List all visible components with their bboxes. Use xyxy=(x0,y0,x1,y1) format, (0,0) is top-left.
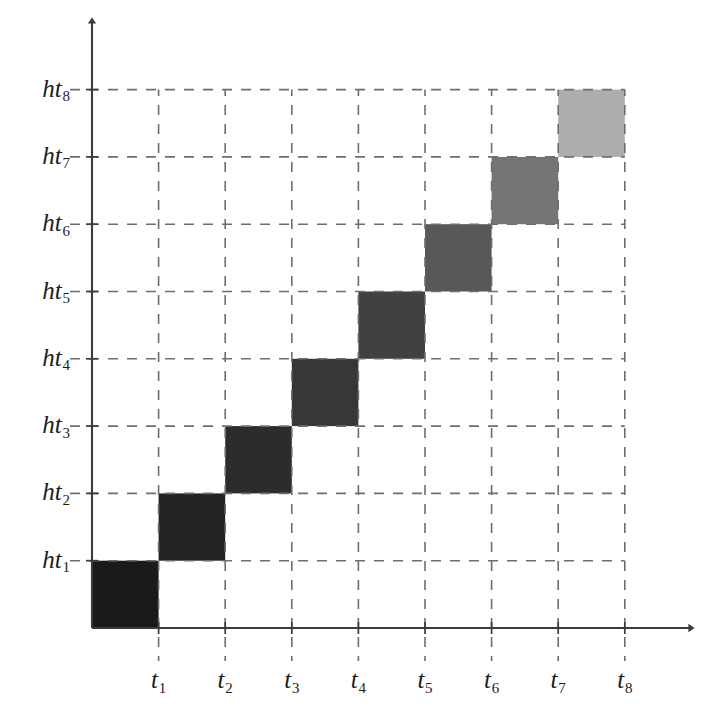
tick-label-subscript: 1 xyxy=(159,680,167,696)
x-axis-tick-label: t2 xyxy=(218,667,233,696)
x-axis-tick-label: t6 xyxy=(484,667,499,696)
tick-label-base: t xyxy=(218,666,225,693)
y-axis-tick-label: ht3 xyxy=(42,412,70,441)
tick-label-base: t xyxy=(617,666,624,693)
tick-label-subscript: 8 xyxy=(63,88,71,104)
y-axis-tick-label: ht5 xyxy=(42,277,70,306)
x-axis-tick-label: t4 xyxy=(351,667,366,696)
tick-label-subscript: 4 xyxy=(63,357,71,373)
tick-label-subscript: 6 xyxy=(492,680,500,696)
tick-label-subscript: 4 xyxy=(358,680,366,696)
diagonal-block xyxy=(159,493,226,560)
tick-label-base: t xyxy=(551,666,558,693)
diagonal-block xyxy=(492,157,559,224)
tick-label-base: t xyxy=(417,666,424,693)
tick-label-base: ht xyxy=(42,209,62,236)
diagonal-block xyxy=(558,90,625,157)
diagonal-block xyxy=(358,292,425,359)
tick-label-base: ht xyxy=(42,276,62,303)
x-axis-tick-label: t5 xyxy=(417,667,432,696)
tick-label-subscript: 2 xyxy=(225,680,233,696)
diagonal-block xyxy=(225,426,292,493)
x-axis-tick-label: t7 xyxy=(551,667,566,696)
y-axis-tick-label: ht4 xyxy=(42,345,70,374)
tick-label-subscript: 1 xyxy=(63,559,71,575)
x-axis-tick-label: t8 xyxy=(617,667,632,696)
tick-label-base: ht xyxy=(42,411,62,438)
y-axis-tick-label: ht8 xyxy=(42,75,70,104)
diagonal-block-figure: ht1ht2ht3ht4ht5ht6ht7ht8 t1t2t3t4t5t6t7t… xyxy=(0,0,710,712)
y-axis-tick-label: ht7 xyxy=(42,143,70,172)
tick-label-base: t xyxy=(284,666,291,693)
tick-label-base: ht xyxy=(42,545,62,572)
tick-label-subscript: 6 xyxy=(63,222,71,238)
diagonal-block xyxy=(92,561,159,628)
tick-label-base: ht xyxy=(42,142,62,169)
x-axis-tick-label: t1 xyxy=(151,667,166,696)
tick-label-subscript: 3 xyxy=(292,680,300,696)
tick-label-subscript: 2 xyxy=(63,492,71,508)
tick-label-base: ht xyxy=(42,74,62,101)
tick-label-base: t xyxy=(151,666,158,693)
y-axis-tick-label: ht2 xyxy=(42,479,70,508)
tick-label-subscript: 3 xyxy=(63,424,71,440)
tick-label-subscript: 5 xyxy=(425,680,433,696)
plot-canvas xyxy=(0,0,710,712)
x-axis-tick-label: t3 xyxy=(284,667,299,696)
tick-label-base: ht xyxy=(42,478,62,505)
tick-label-subscript: 5 xyxy=(63,290,71,306)
diagonal-block xyxy=(425,224,492,291)
tick-label-base: t xyxy=(484,666,491,693)
y-axis-tick-label: ht6 xyxy=(42,210,70,239)
tick-label-subscript: 7 xyxy=(63,155,71,171)
diagonal-block xyxy=(292,359,359,426)
y-axis-tick-label: ht1 xyxy=(42,546,70,575)
tick-label-base: ht xyxy=(42,344,62,371)
tick-label-subscript: 7 xyxy=(558,680,566,696)
tick-label-base: t xyxy=(351,666,358,693)
tick-label-subscript: 8 xyxy=(625,680,633,696)
